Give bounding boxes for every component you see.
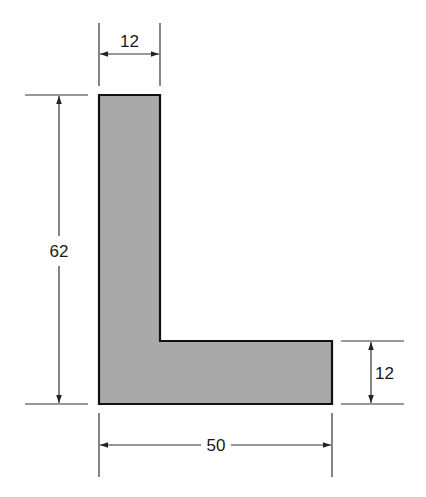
l-section-diagram: 12 62 12 50 bbox=[0, 0, 426, 497]
dimension-total-width: 50 bbox=[99, 413, 332, 477]
dimension-label-bottom-thickness: 12 bbox=[375, 364, 394, 383]
dimension-total-height: 62 bbox=[25, 95, 88, 404]
dimension-label-total-height: 62 bbox=[50, 242, 69, 261]
dimension-label-total-width: 50 bbox=[207, 436, 226, 455]
dimension-top-width: 12 bbox=[99, 23, 160, 86]
l-shape bbox=[99, 95, 332, 404]
dimension-bottom-thickness: 12 bbox=[341, 341, 404, 404]
dimension-label-top-width: 12 bbox=[120, 32, 139, 51]
